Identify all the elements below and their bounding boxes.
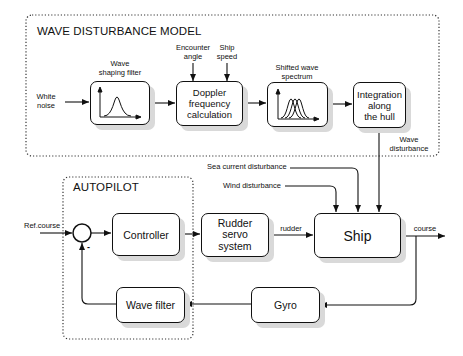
ref-course-label: Ref.course	[24, 222, 60, 231]
summing-junction	[73, 224, 91, 242]
sea-current-disturbance-label: Sea current disturbance	[207, 163, 287, 172]
ship-autopilot-block-diagram: WAVE DISTURBANCE MODEL AUTOPILOT White n…	[0, 0, 463, 356]
integration-along-hull-block: Integration along the hull	[353, 82, 406, 128]
wind-disturbance-label: Wind disturbance	[223, 182, 281, 191]
shifted-wave-spectrum-block	[267, 82, 328, 127]
rudder-signal-label: rudder	[274, 225, 308, 234]
shifted-spectrum-caption: Shifted wave spectrum	[262, 64, 332, 81]
single-peak-spectrum-icon	[95, 85, 145, 121]
ship-block: Ship	[314, 213, 401, 258]
white-noise-label: White noise	[30, 93, 62, 110]
ship-speed-label: Ship speed	[213, 44, 241, 61]
shaping-filter-caption: Wave shaping filter	[90, 60, 150, 77]
rudder-servo-block: Rudder servo system	[201, 213, 269, 257]
wave-filter-block: Wave filter	[116, 287, 185, 323]
wave-model-title: WAVE DISTURBANCE MODEL	[37, 25, 202, 37]
course-signal-label: course	[408, 225, 442, 234]
summing-minus-sign: -	[87, 243, 90, 252]
wave-shaping-filter-block	[90, 81, 150, 125]
wave-disturbance-label: Wave disturbance	[382, 136, 436, 153]
controller-block: Controller	[112, 213, 180, 256]
multi-peak-spectrum-icon	[273, 87, 323, 123]
encounter-angle-label: Encounter angle	[173, 44, 213, 61]
doppler-frequency-block: Doppler frequency calculation	[176, 81, 243, 126]
autopilot-title: AUTOPILOT	[73, 181, 139, 193]
gyro-block: Gyro	[251, 287, 320, 323]
